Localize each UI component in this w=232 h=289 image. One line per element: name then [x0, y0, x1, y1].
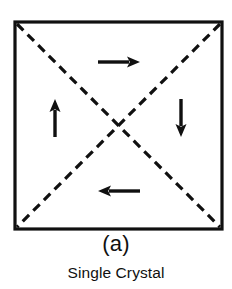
figure-container: (a) Single Crystal — [0, 0, 232, 289]
figure-caption: Single Crystal — [0, 263, 232, 283]
panel-label: (a) — [0, 231, 232, 257]
